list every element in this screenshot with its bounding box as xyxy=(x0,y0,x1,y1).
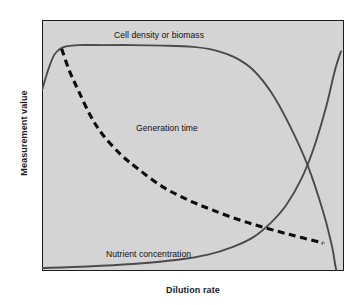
curve-nutrient-concentration xyxy=(42,51,341,268)
x-axis-label: Dilution rate xyxy=(42,285,344,295)
series-label-generation-time: Generation time xyxy=(136,123,198,133)
curve-generation-time xyxy=(62,49,323,244)
curve-cell-density xyxy=(42,45,336,271)
series-label-cell-density: Cell density or biomass xyxy=(114,30,204,40)
chart-figure: Measurement value Cell density or biomas… xyxy=(0,0,357,305)
series-label-nutrient-concentration: Nutrient concentration xyxy=(106,249,191,259)
curves-svg xyxy=(42,20,344,271)
y-axis-label: Measurement value xyxy=(19,63,29,203)
plot-area: Cell density or biomass Generation time … xyxy=(42,20,344,271)
